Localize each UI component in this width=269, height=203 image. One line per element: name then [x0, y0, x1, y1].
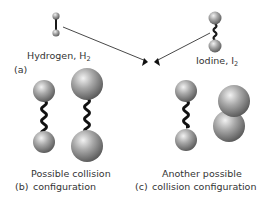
hydrogen-label: Hydrogen, H2 — [27, 50, 91, 62]
panel-c-line2: collision configuration — [152, 181, 256, 193]
panel-c-tag: (c) — [135, 181, 148, 193]
arrowhead-left-icon — [142, 58, 148, 66]
hydrogen-molecule-b — [33, 80, 55, 153]
iodine-molecule-small — [209, 12, 222, 53]
hydrogen-molecule-c — [175, 80, 197, 151]
panel-c-line1: Another possible — [162, 168, 242, 180]
hydrogen-molecule-small — [52, 12, 59, 36]
iodine-molecule-b — [71, 68, 103, 162]
iodine-molecule-c — [213, 85, 250, 142]
panel-b-line1: Possible collision — [31, 168, 111, 180]
panel-b-tag: (b) — [15, 181, 28, 193]
panel-b-line2: configuration — [33, 181, 96, 193]
iodine-label: Iodine, I2 — [196, 55, 238, 67]
panel-a-tag: (a) — [14, 64, 27, 76]
